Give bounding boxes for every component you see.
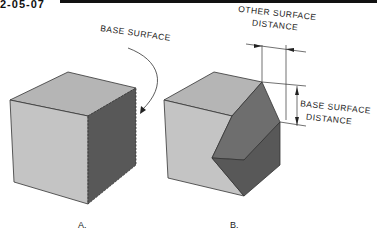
figure-a-label: A. bbox=[78, 220, 87, 230]
cube-a bbox=[10, 72, 136, 204]
cube-b bbox=[164, 72, 280, 196]
figure-b-label: B. bbox=[230, 220, 239, 230]
